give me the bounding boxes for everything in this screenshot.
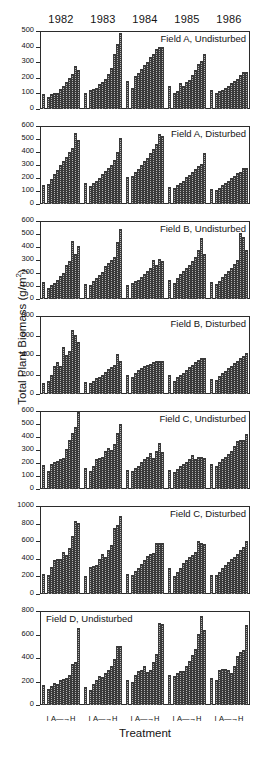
bar [168, 675, 171, 705]
bar [203, 254, 206, 300]
bar [203, 544, 206, 594]
bar [245, 625, 248, 705]
y-tick-mark [36, 247, 40, 248]
y-axis-title-text: Total Plant Biomass (g/m [16, 277, 28, 404]
bar [210, 189, 213, 204]
bar [84, 93, 87, 109]
panel-title: Field B, Disturbed [170, 318, 246, 329]
bar [84, 687, 87, 705]
x-tick-arrow: —→ [182, 714, 196, 723]
panel-3: 0100200300400500600Field B, Undisturbed [40, 221, 250, 299]
bar-groups [40, 506, 250, 594]
y-tick-label: 500 [21, 134, 34, 142]
y-tick-label: 600 [21, 216, 34, 224]
y-tick-mark [36, 411, 40, 412]
x-tick-initial: I [46, 714, 48, 723]
panel-title: Field A, Disturbed [171, 128, 246, 139]
bar [168, 568, 171, 594]
bar [168, 470, 171, 490]
year-label-1985: 1985 [166, 10, 208, 28]
year-label-1984: 1984 [124, 10, 166, 28]
bar [77, 246, 80, 299]
bar [84, 468, 87, 489]
y-tick-label: 200 [21, 173, 34, 181]
y-tick-mark [36, 682, 40, 683]
bar-group-1982 [40, 411, 82, 489]
y-tick-label: 600 [21, 536, 34, 544]
bar [84, 284, 87, 299]
bar [84, 576, 87, 594]
y-tick-label: 200 [21, 677, 34, 685]
bar [126, 285, 129, 299]
x-tick-gradient-end: H [154, 714, 159, 723]
bar [203, 458, 206, 489]
bar [203, 54, 206, 109]
y-tick-mark [36, 31, 40, 32]
x-tick-initial: I [130, 714, 132, 723]
y-tick-mark [36, 286, 40, 287]
bar-group-1984 [124, 506, 166, 594]
y-tick-label: 300 [21, 255, 34, 263]
y-tick-label: 200 [21, 268, 34, 276]
bar [245, 250, 248, 299]
bar [203, 153, 206, 204]
bar [161, 452, 164, 489]
bar [126, 177, 129, 204]
bar-group-1985 [166, 611, 208, 705]
x-axis-title: Treatment [40, 727, 250, 739]
bar [119, 229, 122, 299]
year-header: 19821983198419851986 [40, 10, 250, 28]
bar [161, 261, 164, 299]
y-tick-label: 200 [21, 458, 34, 466]
x-tick-initial: I [214, 714, 216, 723]
y-tick-label: 200 [21, 370, 34, 378]
bar [161, 624, 164, 705]
bar-group-1983 [82, 611, 124, 705]
y-tick-label: 600 [21, 630, 34, 638]
y-tick-mark [36, 126, 40, 127]
y-tick-mark [36, 204, 40, 205]
x-tick-group-1983: IA—→H [82, 711, 124, 725]
bar-group-1983 [82, 506, 124, 594]
bar-group-1982 [40, 611, 82, 705]
bar [77, 70, 80, 109]
bar [42, 94, 45, 109]
bar-group-1983 [82, 411, 124, 489]
y-tick-mark [36, 139, 40, 140]
y-tick-mark [36, 611, 40, 612]
y-tick-label: 300 [21, 57, 34, 65]
bar [210, 379, 213, 394]
bar [126, 574, 129, 594]
bar [42, 383, 45, 394]
y-tick-label: 400 [21, 147, 34, 155]
y-tick-label: 800 [21, 519, 34, 527]
bar-group-1983 [82, 31, 124, 109]
y-tick-mark [36, 47, 40, 48]
y-tick-mark [36, 62, 40, 63]
y-tick-label: 400 [21, 350, 34, 358]
y-tick-label: 300 [21, 160, 34, 168]
panel-4: 0200400600800Field B, Disturbed [40, 316, 250, 394]
bar-group-1982 [40, 316, 82, 394]
bar [210, 678, 213, 705]
y-tick-mark [36, 705, 40, 706]
y-tick-label: 100 [21, 281, 34, 289]
y-tick-mark [36, 178, 40, 179]
y-tick-label: 200 [21, 73, 34, 81]
bar-group-1984 [124, 316, 166, 394]
bar [126, 81, 129, 109]
bar-group-1984 [124, 611, 166, 705]
y-tick-mark [36, 93, 40, 94]
bar [203, 358, 206, 394]
y-tick-label: 600 [21, 331, 34, 339]
y-tick-label: 100 [21, 186, 34, 194]
bar-group-1986 [208, 506, 250, 594]
y-tick-mark [36, 109, 40, 110]
y-tick-mark [36, 450, 40, 451]
x-axis-tick-labels: IA—→HIA—→HIA—→HIA—→HIA—→H [40, 711, 250, 725]
y-tick-label: 100 [21, 471, 34, 479]
y-tick-mark [36, 316, 40, 317]
y-tick-mark [36, 506, 40, 507]
y-tick-mark [36, 299, 40, 300]
bar [126, 470, 129, 490]
